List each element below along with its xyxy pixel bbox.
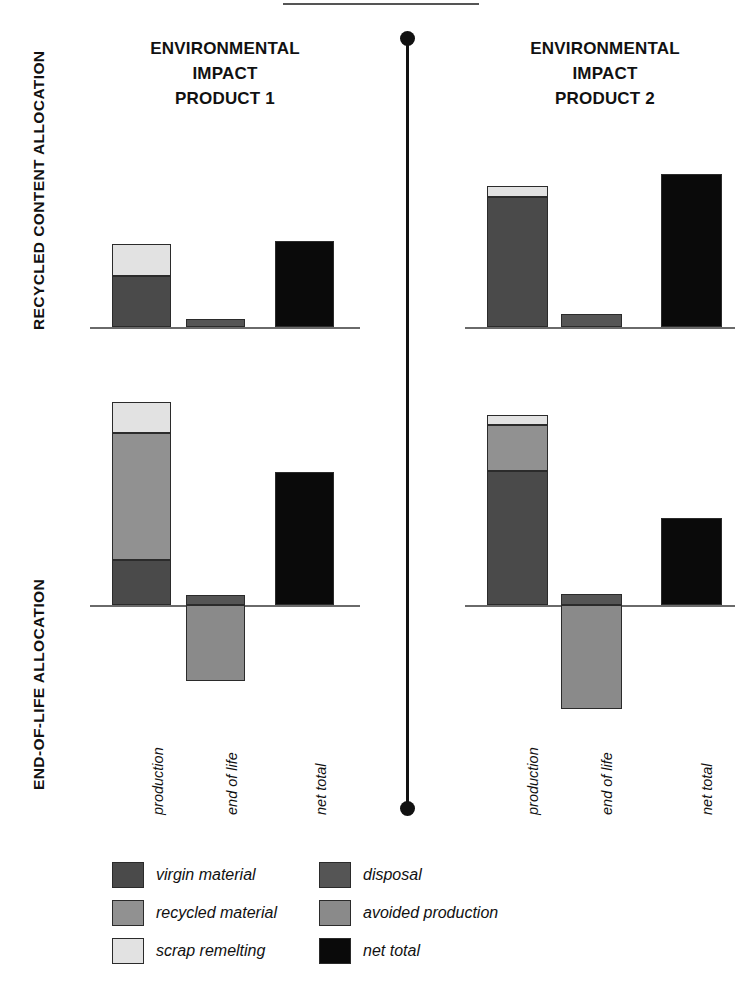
bar-segment-virgin-material bbox=[112, 560, 171, 605]
row-title-end-of-life-allocation: END-OF-LIFE ALLOCATION bbox=[30, 579, 48, 790]
bar-segment-scrap-remelting bbox=[112, 402, 171, 433]
legend-label-virgin-material: virgin material bbox=[156, 863, 256, 887]
legend-swatch-recycled-material bbox=[112, 900, 144, 926]
bar-segment-scrap-remelting bbox=[112, 244, 171, 276]
bar-end-of-life bbox=[186, 595, 245, 681]
top-rule-divider bbox=[283, 3, 479, 5]
category-label-production: production bbox=[525, 747, 541, 815]
baseline-axis bbox=[465, 327, 735, 329]
bar-production bbox=[112, 244, 171, 327]
bar-net-total bbox=[661, 518, 722, 605]
legend-label-disposal: disposal bbox=[363, 863, 422, 887]
bar-production bbox=[487, 415, 548, 605]
panel-title-product-1: ENVIRONMENTAL IMPACT PRODUCT 1 bbox=[105, 36, 345, 111]
divider-dot-bottom bbox=[400, 801, 415, 816]
bar-net-total bbox=[661, 174, 722, 327]
legend-label-recycled-material: recycled material bbox=[156, 901, 277, 925]
legend-label-scrap-remelting: scrap remelting bbox=[156, 939, 265, 963]
category-label-net-total: net total bbox=[699, 763, 715, 815]
bar-segment-scrap-remelting bbox=[487, 186, 548, 197]
chart-product-1-recycled-content-allocation bbox=[90, 150, 360, 330]
legend-label-net-total: net total bbox=[363, 939, 420, 963]
panel-title-product-1-line-1: ENVIRONMENTAL bbox=[105, 36, 345, 61]
bar-segment-net-total bbox=[275, 241, 334, 327]
panel-title-product-1-line-2: IMPACT bbox=[105, 61, 345, 86]
bar-segment-scrap-remelting bbox=[487, 415, 548, 425]
legend-label-avoided-production: avoided production bbox=[363, 901, 498, 925]
panel-title-product-2: ENVIRONMENTAL IMPACT PRODUCT 2 bbox=[485, 36, 725, 111]
bar-segment-recycled-material bbox=[487, 425, 548, 471]
bar-net-total bbox=[275, 472, 334, 605]
bar-segment-disposal bbox=[561, 594, 622, 605]
panel-title-product-2-line-2: IMPACT bbox=[485, 61, 725, 86]
bar-end-of-life bbox=[186, 319, 245, 327]
legend-swatch-scrap-remelting bbox=[112, 938, 144, 964]
legend-swatch-avoided-production bbox=[319, 900, 351, 926]
panel-title-product-1-line-3: PRODUCT 1 bbox=[105, 86, 345, 111]
bar-segment-disposal bbox=[186, 319, 245, 327]
center-divider-line bbox=[406, 40, 409, 808]
bar-segment-avoided-production bbox=[186, 605, 245, 681]
bar-segment-net-total bbox=[661, 518, 722, 605]
baseline-axis bbox=[90, 327, 360, 329]
chart-product-2-end-of-life-allocation bbox=[465, 385, 735, 685]
category-label-production: production bbox=[150, 747, 166, 815]
bar-end-of-life bbox=[561, 314, 622, 327]
chart-product-2-recycled-content-allocation bbox=[465, 150, 735, 330]
panel-title-product-2-line-1: ENVIRONMENTAL bbox=[485, 36, 725, 61]
bar-net-total bbox=[275, 241, 334, 327]
category-label-end-of-life: end of life bbox=[224, 752, 240, 815]
legend-swatch-virgin-material bbox=[112, 862, 144, 888]
row-title-recycled-content-allocation: RECYCLED CONTENT ALLOCATION bbox=[30, 51, 48, 330]
chart-product-1-end-of-life-allocation bbox=[90, 385, 360, 685]
bar-segment-virgin-material bbox=[487, 197, 548, 327]
category-label-end-of-life: end of life bbox=[599, 752, 615, 815]
bar-segment-virgin-material bbox=[487, 471, 548, 605]
bar-production bbox=[487, 186, 548, 327]
legend-swatch-disposal bbox=[319, 862, 351, 888]
category-label-net-total: net total bbox=[313, 763, 329, 815]
bar-segment-disposal bbox=[186, 595, 245, 605]
bar-segment-disposal bbox=[561, 314, 622, 327]
panel-title-product-2-line-3: PRODUCT 2 bbox=[485, 86, 725, 111]
bar-production bbox=[112, 402, 171, 605]
bar-segment-recycled-material bbox=[112, 433, 171, 559]
legend-swatch-net-total bbox=[319, 938, 351, 964]
bar-segment-net-total bbox=[661, 174, 722, 327]
bar-segment-virgin-material bbox=[112, 276, 171, 327]
bar-segment-net-total bbox=[275, 472, 334, 605]
bar-end-of-life bbox=[561, 594, 622, 709]
bar-segment-avoided-production bbox=[561, 605, 622, 709]
